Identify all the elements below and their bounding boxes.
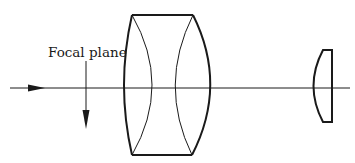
light-direction-arrow-icon [28, 85, 45, 92]
thick-lens [124, 15, 210, 155]
focal-plane-label: Focal plane [48, 44, 127, 60]
small-lens [314, 50, 333, 122]
focal-plane-arrow-icon [83, 110, 90, 129]
optics-diagram [0, 0, 355, 163]
